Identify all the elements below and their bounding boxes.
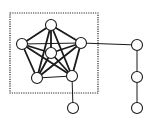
nodes-group	[17, 20, 143, 114]
node-bottom-right	[67, 71, 78, 82]
edge-left-right	[22, 43, 81, 44]
node-center	[46, 48, 57, 59]
node-pendant-bottom	[68, 103, 79, 114]
node-bottom-left	[32, 73, 43, 84]
node-right	[76, 38, 87, 49]
graph-diagram	[0, 0, 149, 122]
edge-right-chain-1	[81, 43, 137, 45]
node-chain-3	[132, 103, 143, 114]
node-chain-1	[132, 40, 143, 51]
node-left	[17, 39, 28, 50]
node-top	[46, 20, 57, 31]
node-chain-2	[132, 72, 143, 83]
